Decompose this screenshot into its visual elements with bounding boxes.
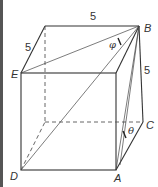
edge-right-back-vertical — [139, 26, 143, 122]
front-face — [21, 73, 116, 170]
diagonal-B-A-inner — [120, 26, 139, 165]
edge-length-top: 5 — [90, 10, 96, 22]
diagonal-B-E — [21, 26, 139, 73]
vertex-label-E: E — [11, 68, 19, 80]
edge-length-left: 5 — [25, 41, 31, 53]
angle-label-theta: θ — [128, 125, 134, 136]
vertex-label-A: A — [113, 172, 121, 184]
diagonal-B-D — [21, 26, 139, 170]
hidden-edge-bottom-left-depth — [21, 122, 45, 170]
angle-label-phi: φ — [109, 39, 116, 50]
vertex-label-D: D — [10, 170, 18, 182]
phi-arc-marker — [118, 38, 121, 45]
diagonal-B-A — [116, 26, 139, 170]
vertex-label-B: B — [144, 22, 151, 34]
cube-diagram: 5 5 5 B E C D A φ θ — [0, 0, 158, 187]
edge-length-right: 5 — [144, 64, 150, 76]
vertex-label-C: C — [146, 119, 154, 131]
